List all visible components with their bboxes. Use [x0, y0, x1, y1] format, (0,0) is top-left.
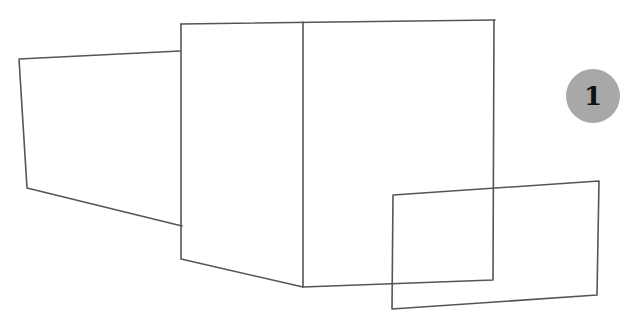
small-rectangle-outline [392, 181, 599, 309]
left-panel-outline [19, 51, 182, 226]
front-face-outline [181, 22, 303, 287]
right-face-outline [303, 20, 494, 287]
sketch-canvas [0, 0, 623, 318]
step-number-label: 1 [584, 81, 602, 111]
top-edge-line [181, 20, 495, 24]
step-number-badge: 1 [566, 69, 620, 123]
